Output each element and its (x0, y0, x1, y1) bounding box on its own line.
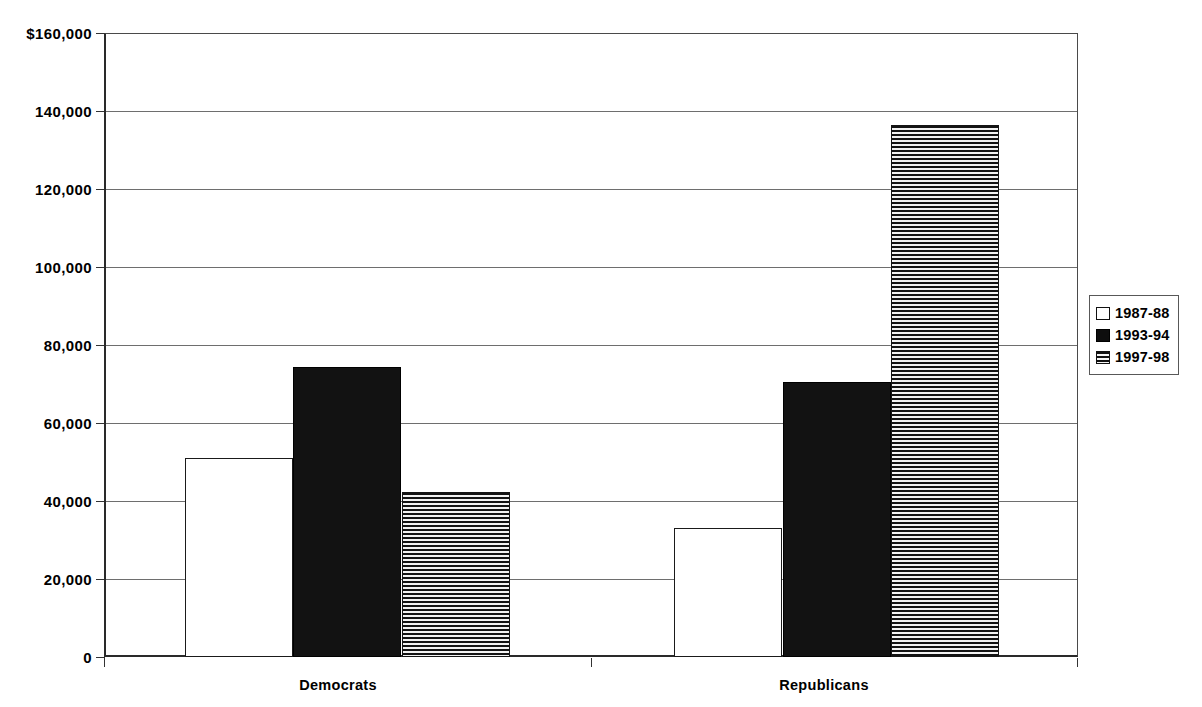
x-axis-tick (104, 658, 105, 667)
y-axis-label: 0 (0, 650, 92, 665)
y-axis-label: 120,000 (0, 182, 92, 197)
x-axis-category-label: Republicans (724, 678, 924, 693)
bar-republicans-1987-88 (674, 528, 782, 657)
bar-republicans-1997-98 (891, 125, 999, 657)
bar-chart: $160,000 140,000 120,000 100,000 80,000 … (0, 0, 1202, 707)
y-axis-label: $160,000 (0, 26, 92, 41)
x-axis-tick (1077, 658, 1078, 667)
y-axis-label: 20,000 (0, 572, 92, 587)
y-axis-label: 60,000 (0, 416, 92, 431)
y-axis-label: 100,000 (0, 260, 92, 275)
legend-item[interactable]: 1987-88 (1096, 302, 1170, 324)
legend-label: 1997-98 (1115, 350, 1170, 365)
bar-democrats-1993-94 (293, 367, 401, 657)
bar-republicans-1993-94 (783, 382, 891, 657)
legend-label: 1993-94 (1115, 328, 1170, 343)
bar-democrats-1987-88 (185, 458, 293, 657)
y-axis-label: 80,000 (0, 338, 92, 353)
legend-item[interactable]: 1993-94 (1096, 324, 1170, 346)
plot-area (104, 33, 1078, 657)
legend-swatch-open-icon (1096, 307, 1110, 320)
legend-swatch-solid-icon (1096, 329, 1110, 342)
legend-swatch-striped-icon (1096, 351, 1110, 364)
x-axis-tick (591, 658, 592, 667)
y-axis-label: 140,000 (0, 104, 92, 119)
chart-legend: 1987-88 1993-94 1997-98 (1089, 295, 1179, 375)
x-axis-category-label: Democrats (238, 678, 438, 693)
y-axis-label: 40,000 (0, 494, 92, 509)
bar-democrats-1997-98 (402, 492, 510, 657)
gridline (106, 111, 1077, 112)
legend-item[interactable]: 1997-98 (1096, 346, 1170, 368)
legend-label: 1987-88 (1115, 306, 1170, 321)
